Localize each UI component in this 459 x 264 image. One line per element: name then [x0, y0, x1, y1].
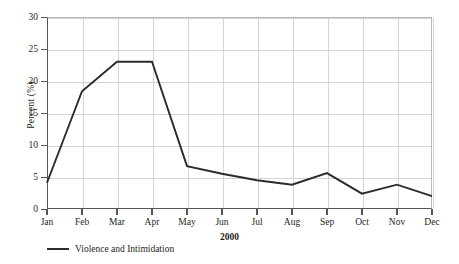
x-axis-tick-label: May	[167, 217, 207, 228]
line-chart-figure: Percent (%) 051015202530 JanFebMarAprMay…	[0, 0, 459, 264]
x-axis-tick-label: Jan	[27, 217, 67, 228]
x-axis-tick	[326, 209, 327, 215]
x-axis-tick	[186, 209, 187, 215]
x-axis-tick	[151, 209, 152, 215]
gridline-vertical	[118, 18, 119, 208]
gridline-horizontal	[48, 82, 431, 83]
legend-item-label: Violence and Intimidation	[75, 244, 174, 254]
x-axis-tick-label: Aug	[272, 217, 312, 228]
gridline-horizontal	[48, 178, 431, 179]
x-axis-tick	[256, 209, 257, 215]
y-axis-tick	[41, 145, 47, 146]
y-axis-tick-label: 20	[8, 76, 38, 86]
x-axis-tick-label: Jul	[237, 217, 277, 228]
x-axis-tick	[361, 209, 362, 215]
x-axis-tick	[46, 209, 47, 215]
x-axis-tick	[431, 209, 432, 215]
x-axis-tick-label: Mar	[97, 217, 137, 228]
gridline-horizontal	[48, 50, 431, 51]
gridline-vertical	[153, 18, 154, 208]
y-axis-tick-label: 5	[8, 172, 38, 182]
y-axis-tick-label: 0	[8, 204, 38, 214]
x-axis-tick	[221, 209, 222, 215]
x-axis-tick-label: Apr	[132, 217, 172, 228]
y-axis-tick	[41, 113, 47, 114]
x-axis-tick-label: Feb	[62, 217, 102, 228]
x-axis-tick-label: Oct	[342, 217, 382, 228]
y-axis-tick	[41, 17, 47, 18]
x-axis-tick	[81, 209, 82, 215]
x-axis-tick-label: Jun	[202, 217, 242, 228]
gridline-vertical	[83, 18, 84, 208]
x-axis-tick	[116, 209, 117, 215]
plot-area	[47, 17, 432, 209]
y-axis-tick-label: 15	[8, 108, 38, 118]
gridline-vertical	[363, 18, 364, 208]
x-axis-tick-label: Nov	[377, 217, 417, 228]
gridline-vertical	[258, 18, 259, 208]
gridline-horizontal	[48, 146, 431, 147]
gridline-vertical	[433, 18, 434, 208]
legend-line-swatch	[47, 248, 69, 250]
y-axis-tick	[41, 81, 47, 82]
y-axis-tick	[41, 177, 47, 178]
y-axis-tick-label: 25	[8, 44, 38, 54]
gridline-vertical	[188, 18, 189, 208]
x-axis-tick	[291, 209, 292, 215]
gridline-vertical	[223, 18, 224, 208]
y-axis-tick	[41, 49, 47, 50]
gridline-vertical	[293, 18, 294, 208]
gridline-horizontal	[48, 18, 431, 19]
gridline-vertical	[398, 18, 399, 208]
x-axis-tick	[396, 209, 397, 215]
y-axis-tick-label: 10	[8, 140, 38, 150]
x-axis-title: 2000	[0, 232, 459, 242]
x-axis-tick-label: Sep	[307, 217, 347, 228]
gridline-horizontal	[48, 114, 431, 115]
gridline-vertical	[328, 18, 329, 208]
x-axis-tick-label: Dec	[412, 217, 452, 228]
chart-legend: Violence and Intimidation	[47, 244, 174, 254]
y-axis-tick-label: 30	[8, 12, 38, 22]
